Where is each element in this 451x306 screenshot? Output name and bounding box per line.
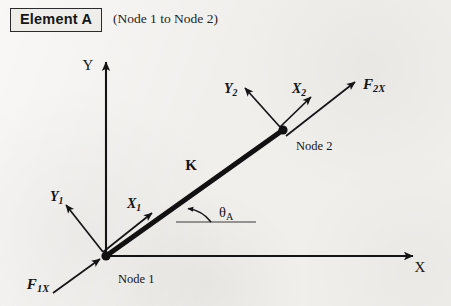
node1-label: Node 1	[118, 272, 154, 286]
node2-label: Node 2	[296, 139, 332, 153]
node1-local-x-arrow	[103, 213, 152, 252]
node2-force-label: F2X	[362, 76, 386, 94]
global-x-axis-label: X	[415, 259, 426, 275]
node1-dot	[101, 251, 110, 260]
angle-arc	[188, 209, 211, 223]
node2-dot	[278, 125, 287, 134]
element-stiffness-label: K	[185, 157, 197, 173]
node2-local-y-label: Y2	[224, 81, 238, 98]
element-diagram: Y X θA K X1 Y1 F1X Node 1 X2	[0, 0, 451, 306]
global-y-axis-label: Y	[83, 57, 94, 73]
element-bar	[106, 130, 283, 256]
node1-local-y-label: Y1	[50, 189, 63, 206]
node2-local-y-arrow	[245, 88, 280, 127]
node1-force-label: F1X	[26, 276, 50, 294]
angle-label: θA	[219, 204, 234, 222]
node1-local-y-arrow	[66, 205, 103, 252]
node1-force-arrow	[53, 259, 100, 293]
figure-canvas: Element A (Node 1 to Node 2) Y X θA	[0, 0, 451, 306]
node1-local-x-label: X1	[126, 196, 141, 213]
node2-local-x-label: X2	[291, 81, 306, 98]
node2-local-x-arrow	[280, 97, 311, 127]
